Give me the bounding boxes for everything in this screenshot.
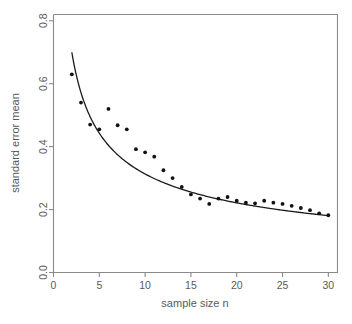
data-point: [152, 155, 156, 159]
data-point: [162, 168, 166, 172]
data-point: [326, 213, 330, 217]
data-point: [281, 202, 285, 206]
data-point: [226, 195, 230, 199]
data-point: [143, 150, 147, 154]
data-point: [107, 107, 111, 111]
scatter-plot-svg: 051015202530 0.00.20.40.60.8 sample size…: [0, 0, 352, 324]
data-point: [97, 127, 101, 131]
data-point: [317, 211, 321, 215]
y-tick-label: 0.4: [37, 139, 49, 154]
x-tick-label: 0: [51, 279, 57, 291]
data-point: [116, 123, 120, 127]
x-tick-label: 15: [185, 279, 197, 291]
x-tick-label: 10: [139, 279, 151, 291]
y-tick-label: 0.8: [37, 13, 49, 28]
data-point: [235, 199, 239, 203]
data-point: [253, 201, 257, 205]
data-point: [189, 193, 193, 197]
chart-background: [0, 0, 352, 324]
data-point: [171, 176, 175, 180]
data-point: [88, 123, 92, 127]
data-point: [290, 204, 294, 208]
data-point: [217, 197, 221, 201]
y-tick-label: 0.6: [37, 76, 49, 91]
data-point: [207, 202, 211, 206]
x-tick-label: 5: [96, 279, 102, 291]
data-point: [244, 201, 248, 205]
data-point: [134, 147, 138, 151]
data-point: [70, 72, 74, 76]
data-point: [125, 127, 129, 131]
data-point: [299, 206, 303, 210]
x-tick-label: 30: [322, 279, 334, 291]
data-point: [262, 199, 266, 203]
data-point: [308, 208, 312, 212]
data-point: [79, 101, 83, 105]
x-tick-label: 25: [277, 279, 289, 291]
x-tick-label: 20: [231, 279, 243, 291]
data-point: [180, 185, 184, 189]
y-tick-label: 0.2: [37, 202, 49, 217]
y-axis-title: standard error mean: [9, 93, 21, 193]
y-tick-label: 0.0: [37, 265, 49, 280]
x-axis-title: sample size n: [161, 297, 228, 309]
data-point: [198, 197, 202, 201]
data-point: [271, 201, 275, 205]
chart-figure: 051015202530 0.00.20.40.60.8 sample size…: [0, 0, 352, 324]
